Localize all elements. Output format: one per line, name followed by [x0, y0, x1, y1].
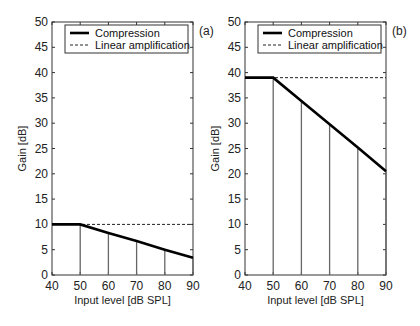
y-axis-label: Gain [dB] [16, 126, 28, 172]
y-tick-label: 15 [35, 192, 49, 206]
chart-panel-b: 40506070809005101520253035404550Compress… [209, 15, 407, 306]
y-tick-label: 0 [234, 268, 241, 282]
y-axis-label: Gain [dB] [209, 126, 221, 172]
y-tick-label: 10 [35, 217, 49, 231]
x-tick-label: 50 [74, 279, 88, 293]
legend-label-compression: Compression [288, 27, 353, 39]
y-tick-label: 20 [228, 167, 242, 181]
y-tick-label: 35 [228, 91, 242, 105]
panel-label: (b) [392, 24, 407, 38]
axes-frame [245, 22, 386, 275]
x-tick-label: 60 [102, 279, 116, 293]
x-axis-label: Input level [dB SPL] [267, 294, 364, 306]
x-tick-label: 90 [379, 279, 393, 293]
legend-label-linear: Linear amplification [288, 39, 383, 51]
legend: CompressionLinear amplification [258, 25, 383, 53]
x-tick-label: 60 [295, 279, 309, 293]
y-tick-label: 25 [35, 142, 49, 156]
figure: 40506070809005101520253035404550Compress… [0, 0, 420, 326]
y-tick-label: 20 [35, 167, 49, 181]
y-tick-label: 15 [228, 192, 242, 206]
legend: CompressionLinear amplification [65, 25, 190, 53]
y-tick-label: 0 [41, 268, 48, 282]
y-tick-label: 35 [35, 91, 49, 105]
y-tick-label: 30 [228, 116, 242, 130]
x-axis-label: Input level [dB SPL] [74, 294, 171, 306]
y-tick-label: 30 [35, 116, 49, 130]
x-tick-label: 80 [351, 279, 365, 293]
y-tick-label: 40 [228, 66, 242, 80]
y-tick-label: 50 [228, 15, 242, 29]
panel-label: (a) [199, 24, 214, 38]
legend-label-linear: Linear amplification [95, 39, 190, 51]
y-tick-label: 5 [41, 243, 48, 257]
y-tick-label: 45 [228, 40, 242, 54]
x-tick-label: 70 [130, 279, 144, 293]
y-tick-label: 10 [228, 217, 242, 231]
y-tick-label: 40 [35, 66, 49, 80]
x-tick-label: 50 [267, 279, 281, 293]
y-tick-label: 50 [35, 15, 49, 29]
y-tick-label: 45 [35, 40, 49, 54]
x-tick-label: 80 [158, 279, 172, 293]
y-tick-label: 25 [228, 142, 242, 156]
y-tick-label: 5 [234, 243, 241, 257]
legend-label-compression: Compression [95, 27, 160, 39]
chart-panel-a: 40506070809005101520253035404550Compress… [16, 15, 214, 306]
x-tick-label: 90 [186, 279, 200, 293]
x-tick-label: 70 [323, 279, 337, 293]
